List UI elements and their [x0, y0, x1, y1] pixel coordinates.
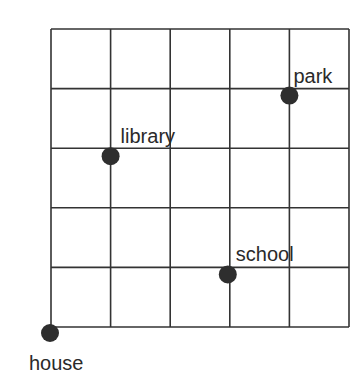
school-point: [219, 265, 237, 283]
park-label: park: [293, 66, 332, 86]
house-point: [41, 324, 59, 342]
grid-diagram: [0, 0, 360, 384]
park-point: [280, 87, 298, 105]
library-label: library: [121, 126, 175, 146]
school-label: school: [236, 244, 294, 264]
library-point: [102, 147, 120, 165]
house-label: house: [29, 353, 84, 373]
